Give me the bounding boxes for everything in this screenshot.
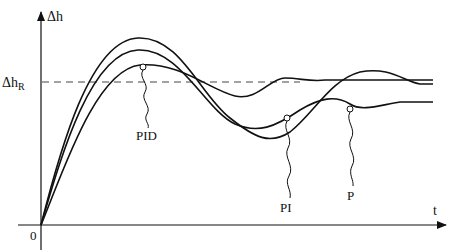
p-marker	[347, 106, 353, 112]
curve-pi	[41, 50, 433, 225]
control-response-diagram: Δh t 0 ΔhR PID PI P	[0, 0, 461, 252]
x-axis-label: t	[433, 203, 437, 218]
pid-leader	[142, 70, 149, 128]
pi-label: PI	[280, 200, 292, 215]
pid-label: PID	[136, 128, 157, 143]
pid-marker	[140, 64, 146, 70]
p-leader	[349, 112, 354, 186]
p-label: P	[347, 188, 354, 203]
origin-label: 0	[30, 228, 37, 243]
y-axis-label: Δh	[47, 9, 63, 24]
reference-label: ΔhR	[2, 75, 25, 92]
curve-p	[41, 38, 433, 225]
pi-marker	[284, 115, 290, 121]
curve-pid	[41, 65, 433, 225]
